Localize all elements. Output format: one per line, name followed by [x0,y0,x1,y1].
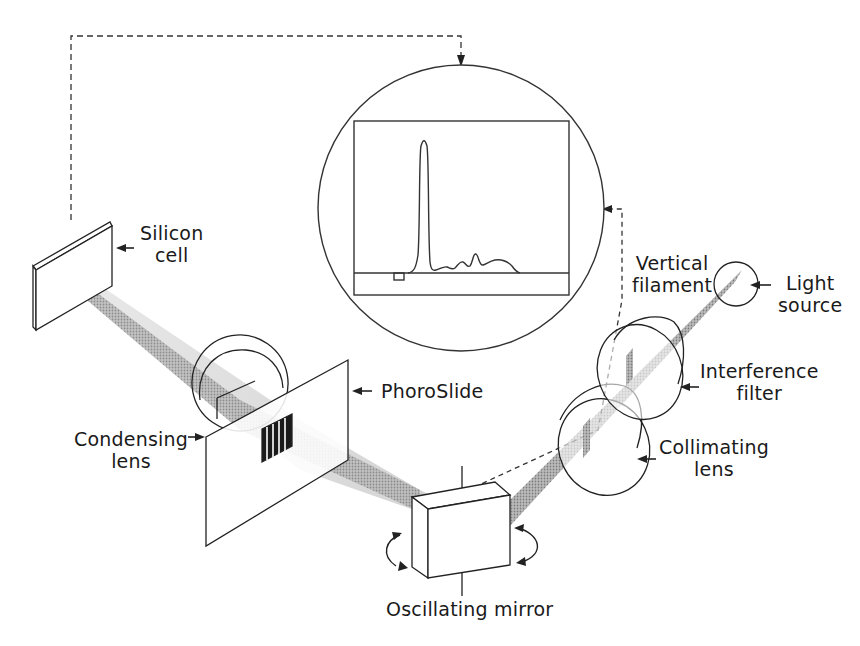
label-silicon-cell: Silicon cell [140,222,203,266]
label-collimating-lens: Collimating lens [659,436,769,480]
oscillating-mirror [412,466,510,596]
label-interference-filter: Interference filter [700,360,819,404]
arrow-left-icon [352,387,362,395]
label-phoroslide: PhoroSlide [381,380,484,402]
label-vertical-filament: Vertical filament [632,252,712,296]
light-source [714,262,758,306]
label-oscillating-mirror: Oscillating mirror [386,598,553,620]
arrow-left-icon [750,281,760,289]
label-light-source: Light source [778,272,842,316]
label-condensing-lens: Condensing lens [74,428,188,472]
silicon-cell [33,222,112,330]
optical-system-diagram [0,0,860,646]
arrow-right-icon [195,433,205,441]
oscilloscope-display [318,65,604,351]
arrow-left-icon [116,244,126,252]
